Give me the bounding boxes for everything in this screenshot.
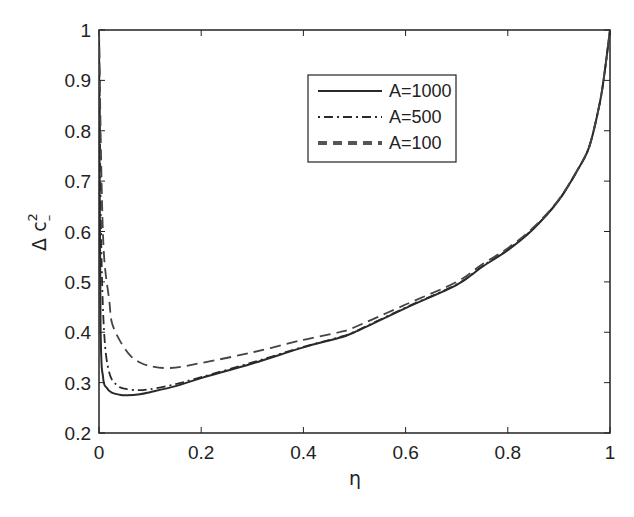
y-tick-label: 0.5	[65, 272, 91, 293]
y-axis-label-sup: 2	[25, 213, 40, 221]
y-tick-label: 0.8	[65, 121, 91, 142]
y-tick-label: 0.7	[65, 171, 91, 192]
y-tick-label: 1	[80, 20, 91, 41]
legend: A=1000 A=500 A=100	[308, 75, 456, 162]
x-tick-label: 0.8	[495, 442, 521, 463]
y-axis-label-main: Δ c	[28, 221, 50, 250]
legend-label-a500: A=500	[389, 107, 442, 127]
x-axis-label: η	[349, 467, 361, 489]
x-tick-label: 0	[94, 442, 105, 463]
x-tick-label: 0.2	[188, 442, 214, 463]
y-tick-label: 0.4	[65, 322, 92, 343]
x-tick-label: 1	[605, 442, 616, 463]
x-tick-label: 0.4	[290, 442, 317, 463]
y-tick-label: 0.3	[65, 373, 91, 394]
y-tick-label: 0.6	[65, 222, 91, 243]
y-tick-label: 0.9	[65, 70, 91, 91]
line-chart: 00.20.40.60.81 0.20.30.40.50.60.70.80.91…	[0, 0, 634, 517]
svg-text:Δ c2–: Δ c2–	[25, 213, 56, 251]
x-tick-label: 0.6	[392, 442, 418, 463]
legend-label-a1000: A=1000	[389, 81, 452, 101]
y-axis-label-sub: –	[41, 215, 56, 222]
y-axis-label: Δ c2–	[25, 213, 56, 251]
y-tick-label: 0.2	[65, 423, 91, 444]
legend-label-a100: A=100	[389, 133, 442, 153]
